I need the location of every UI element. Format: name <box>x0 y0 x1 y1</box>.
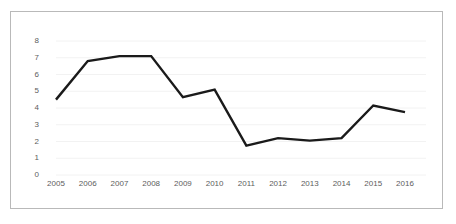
y-axis-tick-label: 7 <box>25 54 39 62</box>
y-axis-tick-label: 8 <box>25 37 39 45</box>
chart-plot-frame: 012345678 200520062007200820092010201120… <box>10 11 443 209</box>
x-axis-tick-label: 2015 <box>358 180 388 188</box>
x-axis-tick-label: 2013 <box>295 180 325 188</box>
y-axis-tick-label: 0 <box>25 171 39 179</box>
y-axis-tick-label: 6 <box>25 71 39 79</box>
y-axis-tick-label: 5 <box>25 87 39 95</box>
x-axis-tick-label: 2016 <box>390 180 420 188</box>
x-axis-tick-label: 2006 <box>73 180 103 188</box>
x-axis-tick-label: 2012 <box>263 180 293 188</box>
y-axis-tick-label: 3 <box>25 121 39 129</box>
data-series-line <box>56 56 405 146</box>
line-chart-figure: 012345678 200520062007200820092010201120… <box>0 0 456 224</box>
x-axis-tick-label: 2007 <box>104 180 134 188</box>
x-axis-tick-label: 2005 <box>41 180 71 188</box>
data-series-group <box>56 56 405 146</box>
x-axis-tick-label: 2010 <box>200 180 230 188</box>
x-axis-tick-label: 2008 <box>136 180 166 188</box>
y-axis-tick-label: 2 <box>25 138 39 146</box>
y-axis-tick-label: 1 <box>25 154 39 162</box>
x-axis-tick-label: 2009 <box>168 180 198 188</box>
x-axis-tick-label: 2014 <box>327 180 357 188</box>
y-axis-tick-label: 4 <box>25 104 39 112</box>
x-axis-tick-label: 2011 <box>231 180 261 188</box>
